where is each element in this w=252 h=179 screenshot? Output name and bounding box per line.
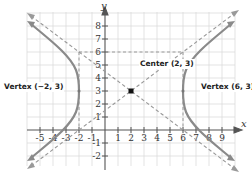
center-label: Center (2, 3) [139, 59, 195, 69]
vertex-right-point [182, 90, 185, 93]
vertex-right-label: Vertex (6, 3) [200, 82, 252, 92]
svg-text:-2: -2 [92, 151, 101, 161]
svg-text:-1: -1 [92, 138, 101, 148]
vertex-left-point [78, 90, 81, 93]
x-axis-label: x [241, 118, 247, 129]
svg-text:2: 2 [95, 99, 101, 109]
svg-text:2: 2 [128, 133, 134, 143]
svg-text:4: 4 [154, 133, 160, 143]
svg-text:9: 9 [219, 133, 225, 143]
svg-text:-2: -2 [75, 133, 84, 143]
svg-text:-3: -3 [62, 133, 71, 143]
svg-text:1: 1 [115, 133, 121, 143]
center-point [129, 89, 134, 94]
asymptote-arrow-icon [27, 13, 35, 20]
svg-text:3: 3 [95, 86, 101, 96]
svg-text:7: 7 [193, 133, 199, 143]
x-tick-labels: -5 -4 -3 -2 -1 1 2 3 4 5 6 7 8 9 [36, 133, 226, 143]
asymptote-arrow-icon [231, 165, 239, 172]
svg-text:-5: -5 [36, 133, 45, 143]
svg-text:3: 3 [141, 133, 147, 143]
asymptote-arrow-icon [27, 162, 35, 169]
svg-text:4: 4 [95, 73, 101, 83]
svg-text:8: 8 [95, 21, 101, 31]
vertex-left-label: Vertex (−2, 3) [3, 82, 64, 92]
svg-text:7: 7 [95, 34, 101, 44]
svg-text:5: 5 [167, 133, 173, 143]
y-axis-label: y [100, 0, 107, 11]
svg-text:6: 6 [180, 133, 186, 143]
